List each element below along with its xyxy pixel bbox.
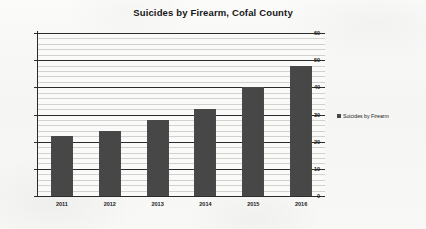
bar-2013 [147, 120, 169, 196]
bar-2014 [194, 109, 216, 196]
x-axis-tick-label: 2014 [185, 201, 225, 207]
x-axis-tick-label: 2016 [281, 201, 321, 207]
bar-2016 [290, 66, 312, 196]
x-axis-tick-label: 2011 [42, 201, 82, 207]
legend-entry-label: Suicides by Firearm [343, 113, 389, 119]
x-axis-tick-label: 2015 [233, 201, 273, 207]
x-axis-tick-label: 2012 [90, 201, 130, 207]
chart-title: Suicides by Firearm, Cofal County [0, 7, 426, 18]
legend-color-swatch-icon [337, 114, 341, 118]
chart-legend: Suicides by Firearm [337, 113, 389, 119]
bar-series [38, 33, 325, 196]
bar-2012 [99, 131, 121, 196]
bar-2011 [51, 136, 73, 196]
x-axis-tick-label: 2013 [138, 201, 178, 207]
major-gridline [34, 196, 325, 197]
bar-2015 [242, 87, 264, 196]
plot-area: 0102030405060 201120122013201420152016 [38, 33, 325, 196]
chart-page: Suicides by Firearm, Cofal County 010203… [0, 0, 426, 229]
